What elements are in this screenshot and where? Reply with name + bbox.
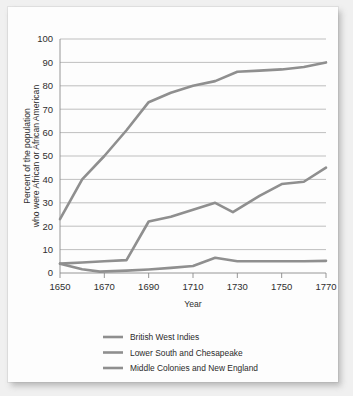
line-chart: 0102030405060708090100 16501670169017101…	[8, 7, 338, 382]
y-axis-tick-label: 100	[37, 33, 53, 44]
y-axis-tick-label: 30	[42, 197, 53, 208]
y-axis-tick-label: 20	[42, 221, 53, 232]
legend-label: Middle Colonies and New England	[130, 363, 258, 373]
y-axis-tick-label: 70	[42, 104, 53, 115]
x-axis-tick-labels: 1650167016901710173017501770	[49, 281, 336, 292]
figure-root: 0102030405060708090100 16501670169017101…	[0, 0, 353, 396]
x-axis-tick-label: 1730	[227, 281, 248, 292]
y-axis-title-line2: who were African or African American	[31, 85, 41, 229]
y-axis-tick-label: 50	[42, 150, 53, 161]
y-axis-tick-label: 0	[48, 267, 53, 278]
y-axis-title: Percent of the population who were Afric…	[22, 85, 41, 229]
x-axis-tick-label: 1710	[182, 281, 203, 292]
y-axis-tick-label: 60	[42, 127, 53, 138]
y-axis-tick-label: 90	[42, 57, 53, 68]
x-axis-tick-label: 1750	[271, 281, 292, 292]
x-axis-tick-label: 1650	[49, 281, 70, 292]
series-line	[60, 258, 326, 272]
legend-label: British West Indies	[130, 332, 199, 342]
x-axis-tick-label: 1690	[138, 281, 159, 292]
figure-card: 0102030405060708090100 16501670169017101…	[8, 7, 338, 382]
gridlines	[60, 39, 326, 250]
x-axis-tick-label: 1670	[94, 281, 115, 292]
chart-legend: British West IndiesLower South and Chesa…	[103, 332, 258, 373]
y-axis-tick-label: 40	[42, 174, 53, 185]
x-axis-tick-label: 1770	[315, 281, 336, 292]
y-axis-tick-label: 10	[42, 244, 53, 255]
x-axis-title: Year	[184, 299, 202, 309]
axis-tickmarks	[60, 273, 326, 278]
y-axis-tick-label: 80	[42, 80, 53, 91]
data-series	[60, 62, 326, 271]
legend-label: Lower South and Chesapeake	[130, 348, 243, 358]
chart-surface: 0102030405060708090100 16501670169017101…	[8, 7, 338, 382]
